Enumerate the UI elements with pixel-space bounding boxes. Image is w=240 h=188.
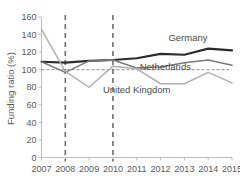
x-tick-label: 2014 (198, 164, 218, 174)
y-axis-group: 020406080100120140160 Funding ratio (%) (5, 12, 42, 163)
y-tick-label: 160 (21, 12, 36, 22)
y-tick-label: 0 (31, 153, 36, 163)
y-tick-label: 40 (26, 118, 36, 128)
y-tick-labels: 020406080100120140160 (21, 12, 36, 163)
x-tick-label: 2011 (127, 164, 146, 174)
y-tick-label: 140 (21, 30, 36, 40)
x-tick-label: 2010 (103, 164, 123, 174)
uk-label: United Kingdom (103, 84, 171, 95)
y-tick-label: 20 (26, 135, 36, 145)
x-tick-label: 2015 (222, 164, 240, 174)
funding-ratio-line-chart: 020406080100120140160 Funding ratio (%) … (0, 0, 240, 188)
x-tick-labels: 200720082009201020112012201320142015 (31, 164, 240, 174)
netherlands-label: Netherlands (140, 61, 191, 72)
y-tick-label: 120 (21, 47, 36, 57)
x-tick-label: 2007 (31, 164, 51, 174)
y-tick-label: 100 (21, 65, 36, 75)
germany-label: Germany (168, 32, 207, 43)
y-tick-label: 60 (26, 100, 36, 110)
y-axis-title: Funding ratio (%) (5, 52, 16, 125)
x-axis-group: 200720082009201020112012201320142015 (31, 158, 240, 174)
series-labels-group: GermanyNetherlandsUnited Kingdom (103, 32, 208, 95)
x-tick-label: 2008 (55, 164, 75, 174)
y-tick-label: 80 (26, 82, 36, 92)
x-tick-label: 2013 (174, 164, 194, 174)
chart-canvas: 020406080100120140160 Funding ratio (%) … (0, 0, 240, 188)
x-tick-label: 2009 (79, 164, 99, 174)
x-tick-label: 2012 (151, 164, 171, 174)
